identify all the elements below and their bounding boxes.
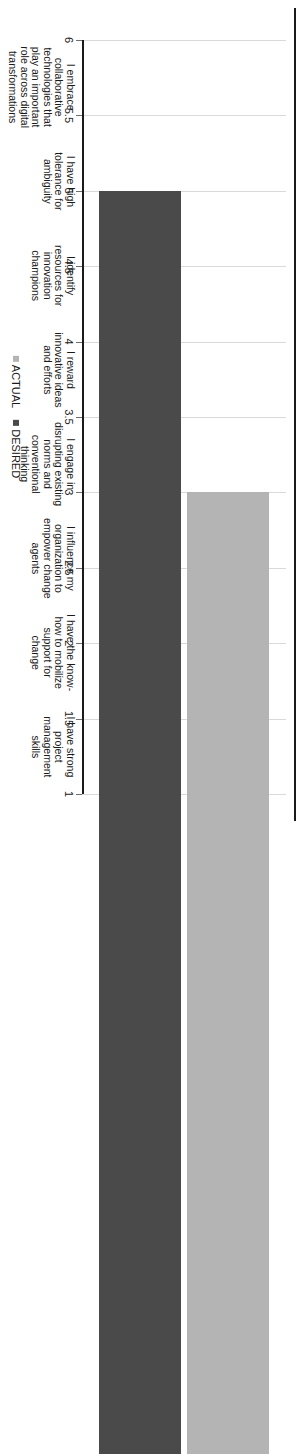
legend-item-desired[interactable]: DESIRED: [10, 420, 22, 478]
frame-edge-rule: [294, 8, 296, 821]
category-axis-labels: I embrace collaborative technologies tha…: [16, 40, 76, 794]
bar-group: [82, 606, 286, 700]
category-label: I engage in disrupting existing norms an…: [19, 417, 77, 511]
legend-label-desired: DESIRED: [10, 429, 22, 478]
category-label: I influence my organization to empower c…: [30, 511, 76, 605]
bar-group: [82, 511, 286, 605]
category-label: I identify resources for innovation cham…: [30, 229, 76, 323]
axis-tick: [76, 417, 82, 418]
bar-group: [82, 134, 286, 228]
legend-label-actual: ACTUAL: [10, 365, 22, 408]
legend-item-actual[interactable]: ACTUAL: [10, 356, 22, 408]
axis-tick: [76, 492, 82, 493]
bar-group: [82, 417, 286, 511]
bar-group: [82, 700, 286, 794]
bar-desired[interactable]: [99, 851, 181, 1454]
bar-actual[interactable]: [187, 1001, 269, 1453]
category-label: I reward innovative ideas and efforts: [42, 323, 77, 417]
category-label: I have strong project management skills: [30, 700, 76, 794]
legend-swatch-actual-icon: [13, 356, 19, 362]
category-label: I have the know- how to mobilize support…: [30, 606, 76, 700]
category-label: I embrace collaborative technologies tha…: [7, 40, 76, 134]
bar-group: [82, 323, 286, 417]
bar-series-container: [82, 40, 286, 794]
bar-group: [82, 229, 286, 323]
axis-tick: [76, 794, 82, 795]
category-label: I have high tolerance for ambiguity: [42, 134, 77, 228]
plot-area: [82, 40, 286, 794]
axis-tick: [76, 342, 82, 343]
axis-tick: [76, 40, 82, 41]
axis-tick: [76, 115, 82, 116]
chart-legend: ACTUAL DESIRED: [10, 356, 22, 478]
legend-swatch-desired-icon: [13, 420, 19, 426]
category-axis-line: [82, 40, 84, 794]
bar-group: [82, 40, 286, 134]
